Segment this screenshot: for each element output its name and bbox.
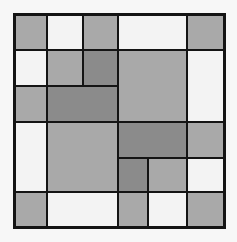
cell-r2-c2: [46, 49, 84, 87]
cell-r3-c1: [14, 85, 48, 123]
cell-r6-c2: [46, 191, 119, 228]
cell-r1-c3: [82, 14, 119, 51]
cell-r6-c6: [186, 191, 225, 228]
grid-board: [0, 0, 237, 242]
cell-r2-c6: [186, 49, 225, 123]
cell-r6-c1: [14, 191, 48, 228]
cell-r5-c4: [117, 157, 149, 193]
cell-r4-c4: [117, 121, 188, 159]
cell-r5-c5: [147, 157, 188, 193]
cell-r2-c1: [14, 49, 48, 87]
cell-r3-c2: [46, 85, 119, 123]
cell-r6-c4: [117, 191, 149, 228]
cell-r1-c6: [186, 14, 225, 51]
cell-r4-c6: [186, 121, 225, 159]
cell-r1-c4: [117, 14, 188, 51]
cell-r5-c6: [186, 157, 225, 193]
cell-r4-c2: [46, 121, 119, 193]
cell-r6-c5: [147, 191, 188, 228]
cell-r1-c1: [14, 14, 48, 51]
cell-r2-c3: [82, 49, 119, 87]
cell-r1-c2: [46, 14, 84, 51]
cell-r4-c1: [14, 121, 48, 193]
cell-r2-c4: [117, 49, 188, 123]
